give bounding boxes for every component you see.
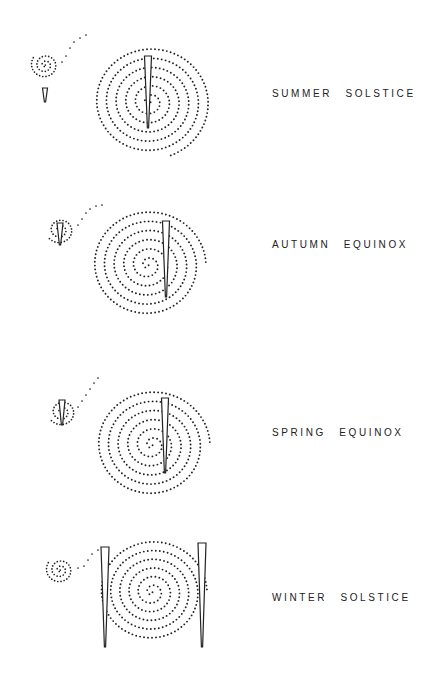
large-spiral-icon [98,391,211,494]
panel-summer-solstice: SUMMER SOLSTICE [0,20,434,170]
large-spiral-icon [96,48,209,156]
sun-dagger-icon [101,547,109,647]
spiral-figure [0,520,250,670]
panel-winter-solstice: WINTER SOLSTICE [0,520,434,670]
small-spiral-icon [46,547,105,582]
small-spiral-icon [31,34,87,77]
spiral-figure [0,185,250,335]
season-label: SPRING EQUINOX [272,427,404,438]
sun-dagger-icon [59,400,65,425]
spiral-figure [0,355,250,505]
sun-dagger-icon [198,543,206,647]
panel-spring-equinox: SPRING EQUINOX [0,355,434,505]
large-spiral-icon [101,541,208,639]
spiral-figure [0,20,250,170]
sun-dagger-icon [162,398,169,473]
sun-dagger-icon [145,56,152,128]
season-label: AUTUMN EQUINOX [272,239,408,250]
panel-autumn-equinox: AUTUMN EQUINOX [0,185,434,335]
season-label: WINTER SOLSTICE [272,592,411,603]
sun-dagger-icon [43,88,48,102]
small-spiral-icon [51,377,99,425]
large-spiral-icon [94,211,207,314]
season-label: SUMMER SOLSTICE [272,88,416,99]
